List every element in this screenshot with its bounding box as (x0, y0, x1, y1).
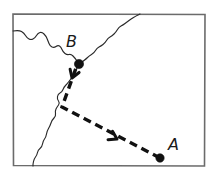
sketch-map-canvas: A B (0, 0, 216, 181)
waypoint-dot-b[interactable] (74, 59, 83, 68)
waypoint-dot-a[interactable] (156, 154, 164, 162)
waypoint-label-a: A (167, 135, 179, 154)
sketch-map-svg: A B (0, 0, 216, 181)
map-background (0, 0, 216, 181)
waypoint-label-b: B (66, 32, 77, 51)
